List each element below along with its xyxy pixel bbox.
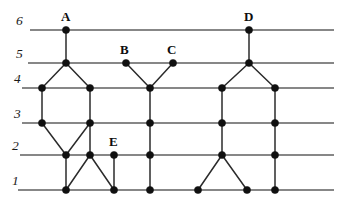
- graph-node-d: [245, 26, 252, 33]
- nodes-group: [38, 26, 278, 193]
- level-label-2: 2: [12, 139, 19, 153]
- graph-node-e: [110, 151, 117, 158]
- graph-node: [243, 186, 250, 193]
- graph-edge: [150, 63, 173, 88]
- graph-node: [146, 186, 153, 193]
- graph-node: [146, 151, 153, 158]
- graph-edge: [66, 63, 90, 88]
- graph-node-a: [62, 26, 69, 33]
- graph-edge: [222, 63, 249, 88]
- node-label-d: D: [244, 10, 253, 23]
- graph-node: [38, 119, 45, 126]
- graph-figure: 654321 ADBCE: [0, 0, 338, 206]
- graph-node: [271, 151, 278, 158]
- graph-edge: [126, 63, 150, 88]
- graph-edge: [66, 155, 90, 190]
- graph-node-b: [122, 59, 129, 66]
- graph-node: [62, 151, 69, 158]
- node-label-c: C: [167, 43, 176, 56]
- graph-edge: [249, 63, 275, 88]
- graph-node: [86, 151, 93, 158]
- graph-node: [62, 59, 69, 66]
- graph-node: [271, 84, 278, 91]
- graph-node: [194, 186, 201, 193]
- graph-canvas: [0, 0, 338, 206]
- graph-node: [245, 59, 252, 66]
- graph-node: [110, 186, 117, 193]
- graph-edge: [42, 123, 66, 155]
- graph-edge: [66, 123, 90, 155]
- graph-node-c: [169, 59, 176, 66]
- graph-node: [271, 186, 278, 193]
- graph-node: [86, 84, 93, 91]
- graph-node: [218, 119, 225, 126]
- node-label-a: A: [61, 10, 70, 23]
- graph-edge: [90, 155, 114, 190]
- node-label-e: E: [109, 135, 118, 148]
- graph-node: [218, 151, 225, 158]
- graph-node: [146, 119, 153, 126]
- level-label-1: 1: [12, 174, 19, 188]
- level-label-6: 6: [16, 14, 23, 28]
- graph-edge: [42, 63, 66, 88]
- graph-node: [146, 84, 153, 91]
- level-label-4: 4: [14, 72, 21, 86]
- graph-node: [38, 84, 45, 91]
- node-label-b: B: [120, 43, 129, 56]
- graph-edge: [222, 155, 247, 190]
- level-label-3: 3: [14, 107, 21, 121]
- graph-node: [218, 84, 225, 91]
- graph-node: [271, 119, 278, 126]
- level-label-5: 5: [16, 47, 23, 61]
- graph-node: [62, 186, 69, 193]
- edges-group: [42, 30, 275, 190]
- graph-node: [86, 119, 93, 126]
- graph-edge: [198, 155, 222, 190]
